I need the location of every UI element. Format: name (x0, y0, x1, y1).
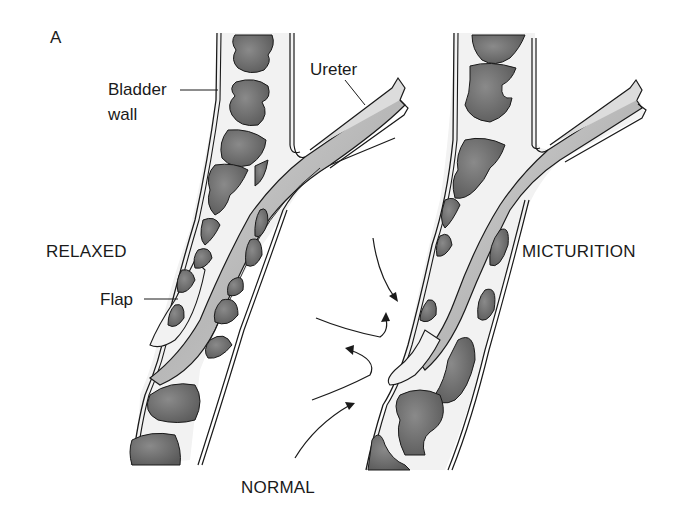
flap-label: Flap (100, 290, 133, 310)
bladder-wall-label-line2: wall (108, 105, 137, 125)
relaxed-panel (130, 33, 408, 465)
bladder-wall-label-line1: Bladder (108, 80, 167, 100)
panel-letter: A (50, 28, 61, 48)
normal-label: NORMAL (241, 478, 315, 498)
relaxed-label: RELAXED (46, 242, 127, 262)
ureter-leader (345, 80, 365, 105)
micturition-label: MICTURITION (522, 242, 636, 262)
ureter-label: Ureter (310, 60, 357, 80)
